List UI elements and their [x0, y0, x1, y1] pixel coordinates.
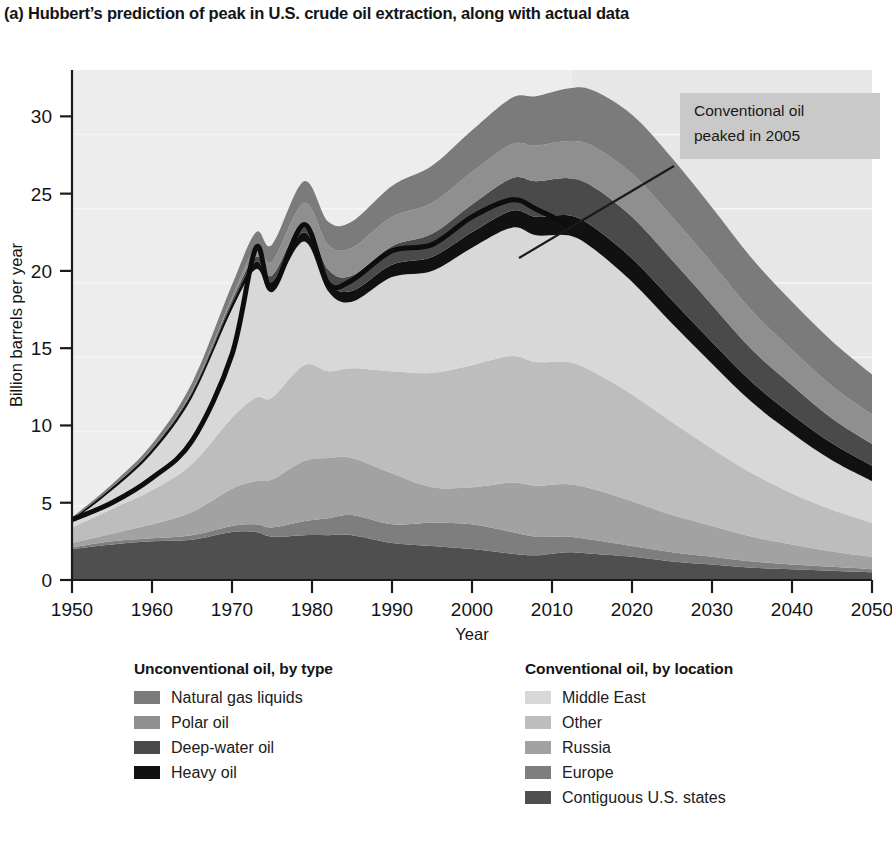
x-tick-label: 2000 — [451, 599, 493, 620]
legend-item[interactable]: Russia — [525, 735, 733, 760]
legend-swatch-icon — [134, 716, 160, 729]
y-tick-label: 5 — [41, 493, 52, 514]
y-tick-label: 20 — [31, 261, 52, 282]
x-tick-label: 2050 — [851, 599, 892, 620]
legend-item-label: Other — [562, 715, 602, 731]
legend-item[interactable]: Europe — [525, 760, 733, 785]
legends: Unconventional oil, by type Natural gas … — [0, 660, 892, 863]
legend-item-label: Contiguous U.S. states — [562, 790, 726, 806]
annotation-line-2: peaked in 2005 — [694, 127, 800, 144]
legend-item[interactable]: Heavy oil — [134, 760, 333, 785]
legend-swatch-icon — [134, 741, 160, 754]
y-tick-label: 15 — [31, 338, 52, 359]
legend-swatch-icon — [134, 766, 160, 779]
legend-unconventional: Unconventional oil, by type Natural gas … — [134, 660, 333, 785]
legend-item[interactable]: Deep-water oil — [134, 735, 333, 760]
x-axis-title: Year — [455, 625, 489, 643]
legend-swatch-icon — [134, 691, 160, 704]
legend-conventional-heading: Conventional oil, by location — [525, 660, 733, 678]
legend-swatch-icon — [525, 741, 551, 754]
legend-item-label: Polar oil — [171, 715, 229, 731]
legend-item-label: Heavy oil — [171, 765, 237, 781]
legend-item-label: Deep-water oil — [171, 740, 274, 756]
legend-swatch-icon — [525, 766, 551, 779]
legend-item[interactable]: Polar oil — [134, 710, 333, 735]
legend-item-label: Middle East — [562, 690, 646, 706]
chart-area: Conventional oil peaked in 2005 05101520… — [0, 46, 892, 646]
legend-item[interactable]: Natural gas liquids — [134, 685, 333, 710]
x-tick-label: 2020 — [611, 599, 653, 620]
x-tick-label: 1980 — [291, 599, 333, 620]
y-axis-title: Billion barrels per year — [7, 242, 25, 407]
y-tick-label: 0 — [41, 570, 52, 591]
legend-swatch-icon — [525, 791, 551, 804]
legend-item[interactable]: Other — [525, 710, 733, 735]
y-tick-label: 10 — [31, 415, 52, 436]
x-tick-label: 1960 — [131, 599, 173, 620]
annotation-line-1: Conventional oil — [694, 102, 804, 119]
legend-item-label: Europe — [562, 765, 614, 781]
stacked-area-chart: Conventional oil peaked in 2005 05101520… — [0, 46, 892, 646]
y-tick-label: 25 — [31, 184, 52, 205]
x-tick-label: 1950 — [51, 599, 93, 620]
legend-unconventional-heading: Unconventional oil, by type — [134, 660, 333, 678]
y-axis: 051015202530 — [31, 106, 72, 591]
legend-item-label: Russia — [562, 740, 611, 756]
x-tick-label: 2030 — [691, 599, 733, 620]
legend-item-label: Natural gas liquids — [171, 690, 303, 706]
x-tick-label: 2040 — [771, 599, 813, 620]
x-axis: 1950196019701980199020002010202020302040… — [51, 580, 892, 620]
x-tick-label: 1970 — [211, 599, 253, 620]
legend-item[interactable]: Contiguous U.S. states — [525, 785, 733, 810]
legend-item[interactable]: Middle East — [525, 685, 733, 710]
x-tick-label: 2010 — [531, 599, 573, 620]
legend-swatch-icon — [525, 716, 551, 729]
legend-conventional: Conventional oil, by location Middle Eas… — [525, 660, 733, 810]
x-tick-label: 1990 — [371, 599, 413, 620]
annotation-callout: Conventional oil peaked in 2005 — [680, 93, 880, 159]
y-tick-label: 30 — [31, 106, 52, 127]
legend-swatch-icon — [525, 691, 551, 704]
figure-title: (a) Hubbert’s prediction of peak in U.S.… — [4, 4, 888, 23]
